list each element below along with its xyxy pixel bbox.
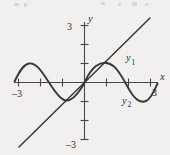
x-axis-label: x bbox=[159, 71, 165, 82]
curve-label-y1: y 1 bbox=[125, 52, 136, 67]
curve-label-y2-base: y bbox=[121, 95, 127, 106]
y-tick-label-bottom: –3 bbox=[65, 139, 76, 150]
curve-label-y2-subscript: 2 bbox=[128, 100, 132, 109]
y-axis-label: y bbox=[87, 13, 93, 24]
function-graph: y x 3 –3 –3 3 y 1 y 2 bbox=[0, 0, 170, 155]
curve-label-y1-base: y bbox=[125, 52, 131, 63]
figure-panel: y x 3 –3 –3 3 y 1 y 2 bbox=[0, 0, 170, 155]
x-tick-label-right: 3 bbox=[152, 87, 157, 98]
curve-label-y2: y 2 bbox=[121, 95, 132, 110]
y-tick-label-top: 3 bbox=[67, 21, 72, 32]
curve-label-y1-subscript: 1 bbox=[132, 58, 136, 67]
x-tick-label-left: –3 bbox=[11, 88, 22, 99]
scan-artifact-strip bbox=[14, 2, 148, 7]
